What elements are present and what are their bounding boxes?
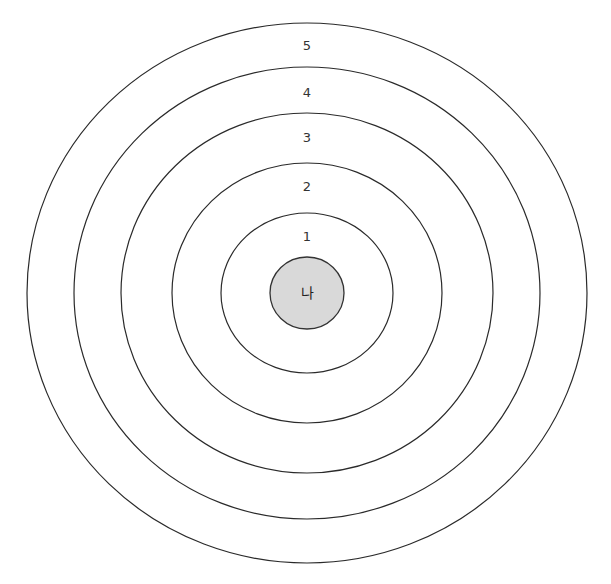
core-label: 나 xyxy=(301,285,314,301)
ring-label-2: 2 xyxy=(303,179,311,194)
ring-label-1: 1 xyxy=(303,229,311,244)
concentric-circles-diagram: 나 12345 xyxy=(0,0,611,584)
ring-label-5: 5 xyxy=(303,38,311,53)
ring-label-4: 4 xyxy=(303,85,311,100)
ring-label-3: 3 xyxy=(303,130,311,145)
